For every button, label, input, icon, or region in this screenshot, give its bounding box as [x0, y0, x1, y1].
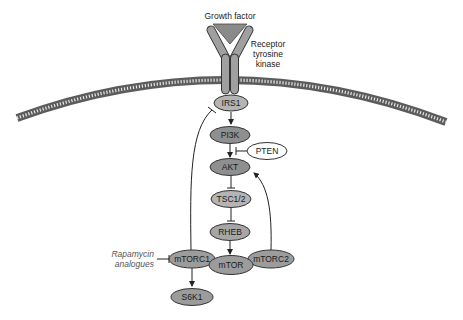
- growth-factor-label: Growth factor: [204, 11, 255, 21]
- svg-text:mTORC2: mTORC2: [253, 254, 289, 264]
- node-pten: PTEN: [247, 143, 287, 160]
- svg-text:TSC1/2: TSC1/2: [217, 194, 246, 204]
- svg-text:PTEN: PTEN: [256, 146, 279, 156]
- arrow-mtorc2-akt: [254, 173, 271, 250]
- svg-text:mTORC1: mTORC1: [174, 254, 210, 264]
- node-tsc1-2: TSC1/2: [211, 191, 251, 208]
- feedback-mtorc1-irs1: [191, 110, 212, 250]
- svg-text:RHEB: RHEB: [218, 227, 242, 237]
- receptor-label-line2: tyrosine: [253, 49, 283, 59]
- svg-text:AKT: AKT: [222, 162, 239, 172]
- svg-text:mTOR: mTOR: [219, 260, 244, 270]
- svg-text:IRS1: IRS1: [222, 98, 241, 108]
- receptor-label-line1: Receptor: [251, 39, 286, 49]
- rapamycin-label-line2: analogues: [115, 259, 155, 269]
- receptor-label-line3: kinase: [256, 59, 281, 69]
- node-rheb: RHEB: [210, 224, 250, 241]
- node-mtor: mTOR: [209, 256, 253, 275]
- signalling-diagram: Growth factor Receptor tyrosine kinase I…: [0, 0, 463, 320]
- node-s6k1: S6K1: [171, 289, 213, 306]
- node-mtorc1: mTORC1: [169, 250, 215, 268]
- svg-text:S6K1: S6K1: [182, 292, 203, 302]
- svg-text:PI3K: PI3K: [221, 130, 240, 140]
- node-irs1: IRS1: [214, 95, 248, 111]
- node-akt: AKT: [210, 159, 250, 176]
- rapamycin-label-line1: Rapamycin: [111, 249, 154, 259]
- node-pi3k: PI3K: [210, 127, 250, 144]
- node-mtorc2: mTORC2: [248, 250, 294, 268]
